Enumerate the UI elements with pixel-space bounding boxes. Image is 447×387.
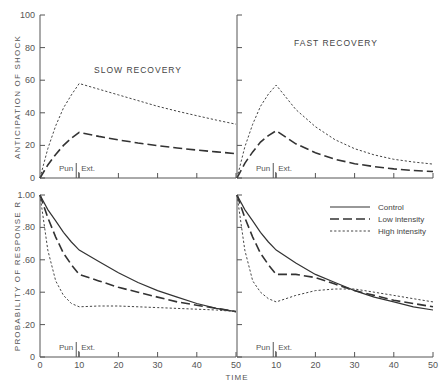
x-tick-label: 40	[192, 360, 202, 370]
figure: 020406080100PunExt. PunExt. 0.20.40.60.8…	[0, 0, 447, 387]
x-tick-label: 30	[350, 360, 360, 370]
y-tick-label: 60	[25, 75, 35, 85]
y-tick-label: .20	[22, 320, 35, 330]
y-tick-label: 1.00	[17, 190, 35, 200]
series-control	[40, 195, 236, 312]
phase-label-ext: Ext.	[81, 343, 95, 352]
y-tick-label: .40	[22, 287, 35, 297]
x-tick-label: 50	[428, 360, 438, 370]
y-tick-label: 0	[30, 352, 35, 362]
phase-label-ext: Ext.	[278, 164, 292, 173]
x-tick-label: 20	[310, 360, 320, 370]
series-high-intensity	[40, 195, 236, 312]
y-tick-label: .80	[22, 222, 35, 232]
series-control	[237, 195, 433, 310]
x-tick-label: 50	[231, 360, 241, 370]
phase-label-pun: Pun	[59, 164, 73, 173]
y-tick-label: 40	[25, 108, 35, 118]
phase-label-ext: Ext.	[278, 343, 292, 352]
legend-label-high-intensity: High intensity	[378, 227, 426, 236]
x-tick-label: 30	[153, 360, 163, 370]
panel-title-slow-recovery: SLOW RECOVERY	[94, 65, 182, 75]
series-low-intensity	[40, 195, 236, 312]
phase-label-pun: Pun	[256, 164, 270, 173]
legend-label-control: Control	[378, 203, 404, 212]
phase-label-pun: Pun	[256, 343, 270, 352]
y-axis-title-top: ANTICIPATION OF SHOCK	[13, 35, 22, 159]
y-tick-label: 100	[20, 10, 35, 20]
x-tick-label: 20	[113, 360, 123, 370]
legend-label-low-intensity: Low intensity	[378, 215, 424, 224]
y-tick-label: 20	[25, 140, 35, 150]
x-tick-label: 0	[37, 360, 42, 370]
x-tick-label: 10	[74, 360, 84, 370]
y-axis-title-bottom: PROBABILITY OF RESPONSE R	[13, 201, 22, 351]
x-tick-label: 40	[389, 360, 399, 370]
x-tick-label: 10	[271, 360, 281, 370]
phase-label-pun: Pun	[59, 343, 73, 352]
phase-label-ext: Ext.	[81, 164, 95, 173]
panel-slow-recovery-probability: 0.20.40.60.801.0001020304050PunExt.	[17, 190, 241, 370]
y-tick-label: 80	[25, 43, 35, 53]
y-tick-label: 0	[30, 173, 35, 183]
panel-title-fast-recovery: FAST RECOVERY	[294, 38, 378, 48]
panel-slow-recovery-anticipation: 020406080100PunExt.	[20, 10, 236, 183]
y-tick-label: .60	[22, 255, 35, 265]
x-axis-title: TIME	[225, 373, 248, 382]
legend: Control Low intensity High intensity	[330, 203, 426, 236]
